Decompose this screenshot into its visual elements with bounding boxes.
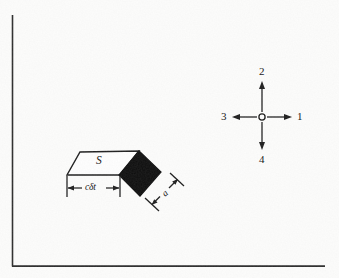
scan-grain-overlay xyxy=(0,0,339,278)
axis-label-2: 2 xyxy=(259,66,265,77)
axis-label-3: 3 xyxy=(221,111,227,122)
axis-label-1: 1 xyxy=(297,111,303,122)
axis-label-4: 4 xyxy=(259,154,265,165)
length-dimension-label: cδt xyxy=(85,183,96,193)
figure-canvas: S cδt a 1 2 3 4 xyxy=(0,0,339,278)
figure-vector-layer xyxy=(0,0,339,278)
surface-label-s: S xyxy=(96,155,102,167)
